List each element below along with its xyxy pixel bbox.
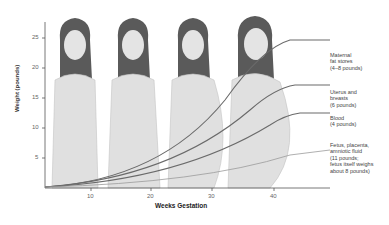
x-tick-40: 40	[270, 193, 277, 199]
x-tick-20: 20	[147, 193, 154, 199]
y-tick-15: 15	[32, 94, 39, 100]
y-tick-20: 20	[32, 64, 39, 70]
chart-canvas	[0, 0, 389, 225]
x-tick-30: 30	[208, 193, 215, 199]
figure-3	[168, 18, 223, 188]
label-fat-stores: Maternal fat stores (4–8 pounds)	[330, 52, 362, 71]
label-uterus-breasts: Uterus and breasts (6 pounds)	[330, 89, 357, 108]
y-axis-title: Weight (pounds)	[14, 65, 20, 112]
label-blood: Blood (4 pounds)	[330, 115, 356, 128]
x-axis-title: Weeks Gestation	[155, 202, 207, 209]
figure-2	[108, 18, 160, 188]
illustration-figures	[52, 16, 290, 188]
y-tick-25: 25	[32, 34, 39, 40]
y-tick-10: 10	[32, 124, 39, 130]
y-tick-5: 5	[35, 154, 38, 160]
label-fetus: Fetus, placenta, amniotic fluid (11 poun…	[330, 142, 373, 174]
x-tick-10: 10	[87, 193, 94, 199]
figure-1	[52, 18, 98, 188]
